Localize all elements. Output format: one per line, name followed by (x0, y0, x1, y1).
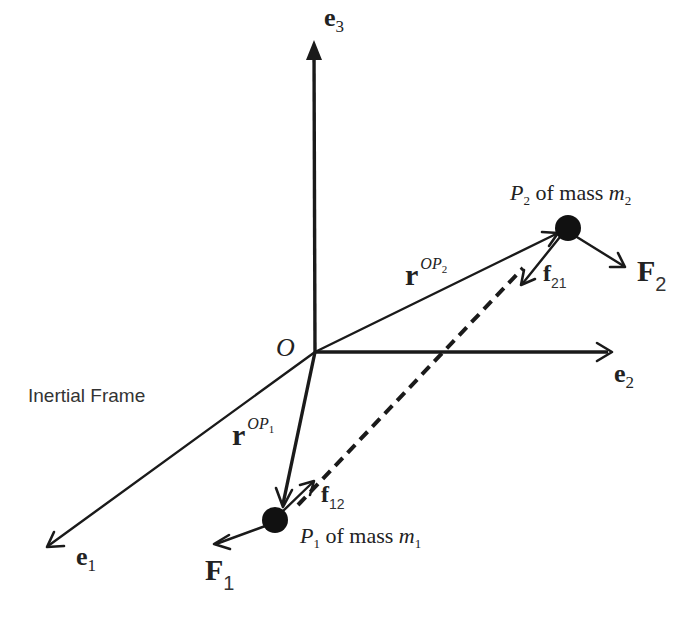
external-force-F1 (214, 525, 268, 549)
position-vector-r2 (315, 232, 558, 352)
particle-p2-label: P2 of mass m2 (509, 180, 631, 208)
r1-label: rOP1 (232, 415, 274, 451)
inertial-frame-diagram: e3 e2 e1 O Inertial Frame rOP2 rOP1 f21 … (0, 0, 698, 620)
e3-axis (306, 40, 322, 352)
particle-p1-dot (262, 507, 288, 533)
particle-p1-label: P1 of mass m1 (299, 523, 421, 551)
r2-label: rOP2 (405, 255, 447, 291)
origin-label: O (276, 333, 295, 362)
F1-label: F1 (205, 553, 234, 594)
e2-label: e2 (614, 359, 634, 392)
particle-p2-dot (555, 215, 581, 241)
e1-label: e1 (76, 542, 96, 575)
e3-arrowhead-icon (306, 40, 322, 60)
F2-label: F2 (637, 254, 666, 295)
external-force-F2 (572, 234, 625, 267)
e3-label: e3 (324, 3, 344, 36)
interaction-dashed-line (298, 268, 523, 505)
f21-label: f21 (543, 260, 567, 291)
e2-axis (315, 343, 612, 361)
frame-label: Inertial Frame (28, 385, 145, 406)
f12-label: f12 (321, 481, 345, 512)
